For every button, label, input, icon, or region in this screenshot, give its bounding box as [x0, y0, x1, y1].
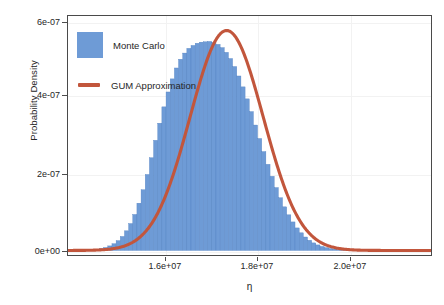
histogram-bar: [237, 76, 241, 250]
legend-label-gum-approximation: GUM Approximation: [111, 80, 196, 91]
histogram-bar: [170, 79, 174, 251]
histogram-bar: [158, 123, 162, 250]
histogram-bar: [145, 174, 149, 250]
y-tick-label-2: 4e-07: [16, 90, 60, 100]
legend: Monte Carlo GUM Approximation: [77, 31, 227, 99]
histogram-bar: [295, 228, 299, 251]
legend-item-gum-approximation: GUM Approximation: [77, 71, 227, 99]
histogram-bar: [308, 240, 312, 250]
histogram-bar: [270, 176, 274, 250]
histogram-bar: [262, 152, 266, 251]
histogram-bar: [266, 164, 270, 250]
legend-item-monte-carlo: Monte Carlo: [77, 31, 227, 59]
x-tick-label-2: 2.0e+07: [315, 261, 385, 271]
histogram-bar: [328, 248, 332, 250]
histogram-bar: [149, 158, 153, 251]
histogram-bar: [291, 222, 295, 251]
x-tick-label-1: 1.8e+07: [222, 261, 292, 271]
x-axis-title: η: [67, 281, 432, 292]
histogram-bar: [228, 59, 232, 251]
x-tick-mark-0: [165, 257, 166, 261]
histogram-bar: [166, 92, 170, 250]
y-axis-tick-group: 6e-07 4e-07 2e-07 0e+00: [12, 0, 60, 305]
chart-figure: Probability Density 6e-07 4e-07 2e-07 0e…: [0, 0, 444, 305]
histogram-bar: [324, 248, 328, 251]
histogram-bar: [133, 214, 137, 250]
legend-label-monte-carlo: Monte Carlo: [113, 40, 165, 51]
histogram-bar: [316, 245, 320, 251]
histogram-bar: [124, 231, 128, 251]
legend-swatch-square-icon: [77, 32, 103, 58]
x-tick-mark-1: [257, 257, 258, 261]
histogram-bar: [129, 224, 133, 251]
x-tick-label-0: 1.6e+07: [130, 261, 200, 271]
histogram-bar: [162, 107, 166, 251]
histogram-bar: [274, 188, 278, 251]
legend-swatch-line-icon: [77, 73, 101, 97]
y-tick-label-1: 2e-07: [16, 169, 60, 179]
histogram-bar: [241, 87, 245, 251]
histogram-bar: [141, 190, 145, 251]
histogram-bar: [312, 243, 316, 251]
x-tick-mark-2: [350, 257, 351, 261]
histogram-bar: [283, 207, 287, 251]
y-tick-label-3: 6e-07: [16, 17, 60, 27]
histogram-bar: [320, 246, 324, 250]
histogram-bar: [154, 140, 158, 250]
histogram-bar: [258, 139, 262, 251]
y-tick-label-0: 0e+00: [16, 246, 60, 256]
histogram-bar: [278, 198, 282, 251]
histogram-bar: [245, 99, 249, 251]
histogram-bar: [137, 203, 141, 250]
histogram-bar: [249, 112, 253, 251]
histogram-bar: [287, 215, 291, 251]
histogram-bar: [299, 233, 303, 251]
plot-panel: Monte Carlo GUM Approximation: [67, 15, 432, 256]
histogram-bar: [303, 237, 307, 250]
histogram-bar: [253, 125, 257, 250]
histogram-bar: [233, 67, 237, 251]
